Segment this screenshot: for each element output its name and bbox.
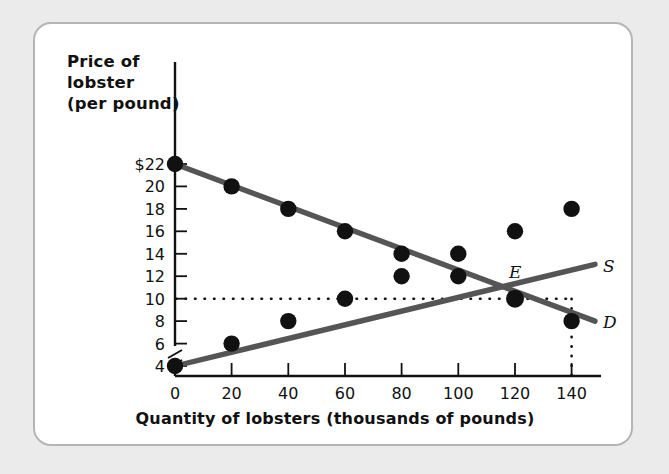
equilibrium-point [506, 290, 524, 308]
y-axis-title-line-1: Price of [67, 51, 180, 72]
y-tick-label-4: 4 [113, 357, 165, 376]
x-tick-label-0: 0 [153, 384, 197, 403]
figure-card: Price of lobster (per pound) Quantity of… [33, 22, 633, 446]
x-tick-label-60: 60 [323, 384, 367, 403]
y-axis-title: Price of lobster (per pound) [67, 51, 180, 114]
x-tick-label-140: 140 [550, 384, 594, 403]
x-axis-ticks [232, 363, 572, 376]
demand-point [280, 201, 296, 217]
supply-points [167, 201, 580, 374]
demand-point [563, 313, 579, 329]
supply-point [563, 201, 579, 217]
x-axis-title: Quantity of lobsters (thousands of pound… [35, 409, 635, 428]
demand-point [337, 223, 353, 239]
x-tick-label-80: 80 [380, 384, 424, 403]
supply-curve-label: S [603, 256, 615, 276]
supply-point [280, 313, 296, 329]
supply-curve-line [175, 264, 595, 366]
supply-point [167, 358, 183, 374]
demand-point [450, 268, 466, 284]
x-tick-label-20: 20 [210, 384, 254, 403]
y-tick-label-20: 20 [113, 177, 165, 196]
y-axis-ticks [175, 164, 187, 366]
supply-point [393, 268, 409, 284]
demand-point [393, 246, 409, 262]
demand-point [223, 178, 239, 194]
y-tick-label-16: 16 [113, 222, 165, 241]
y-tick-label-12: 12 [113, 267, 165, 286]
supply-point [450, 246, 466, 262]
y-tick-label-14: 14 [113, 245, 165, 264]
y-tick-label-6: 6 [113, 335, 165, 354]
supply-demand-chart: Price of lobster (per pound) Quantity of… [35, 24, 635, 448]
y-tick-label-10: 10 [113, 290, 165, 309]
y-tick-label-22: $22 [113, 155, 165, 174]
equilibrium-label: E [509, 262, 521, 282]
y-axis-title-line-3: (per pound) [67, 93, 180, 114]
y-axis-title-line-2: lobster [67, 72, 180, 93]
x-tick-label-120: 120 [493, 384, 537, 403]
y-tick-label-8: 8 [113, 312, 165, 331]
demand-point [167, 156, 183, 172]
x-tick-label-100: 100 [436, 384, 480, 403]
supply-point [507, 223, 523, 239]
supply-point [223, 335, 239, 351]
supply-point [337, 291, 353, 307]
demand-curve-label: D [603, 312, 617, 332]
x-tick-label-40: 40 [266, 384, 310, 403]
y-tick-label-18: 18 [113, 200, 165, 219]
